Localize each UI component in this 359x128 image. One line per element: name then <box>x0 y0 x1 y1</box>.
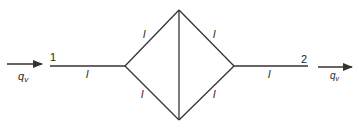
node-2-label: 2 <box>301 53 307 65</box>
lower-left-pipe-label: l <box>141 88 144 100</box>
node-1-label: 1 <box>50 51 56 63</box>
upper-right-pipe <box>179 10 234 66</box>
inlet-pipe-label: l <box>86 68 89 80</box>
upper-right-pipe-label: l <box>213 28 216 40</box>
inlet-flow-label: qv <box>18 70 29 84</box>
lower-right-pipe-label: l <box>213 88 216 100</box>
upper-left-pipe-label: l <box>143 28 146 40</box>
pipe-network-diagram: qv 1 l l l l l l 2 qv <box>0 0 359 128</box>
upper-left-pipe <box>125 10 179 66</box>
lower-right-pipe <box>179 66 234 120</box>
outlet-flow-label: qv <box>330 70 340 82</box>
outlet-pipe-label: l <box>268 68 271 80</box>
lower-left-pipe <box>125 66 179 120</box>
